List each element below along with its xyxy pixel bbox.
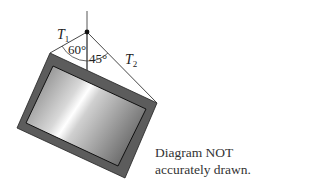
label-t2: T2: [125, 52, 137, 69]
disclaimer-note: Diagram NOT accurately drawn.: [155, 144, 251, 178]
label-angle-45: 45°: [89, 51, 107, 66]
label-angle-60: 60°: [68, 42, 86, 57]
knot-point: [85, 30, 90, 35]
disclaimer-line-1: Diagram NOT: [155, 144, 251, 161]
disclaimer-line-2: accurately drawn.: [155, 161, 251, 178]
